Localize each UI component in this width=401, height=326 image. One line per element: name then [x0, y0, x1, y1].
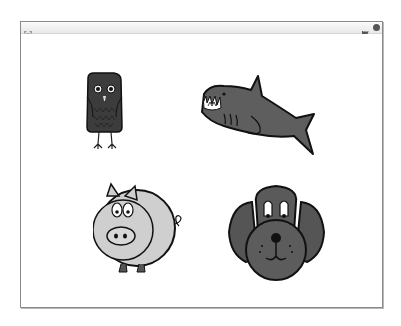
stage-frame	[20, 21, 383, 308]
owl-sprite[interactable]	[84, 72, 126, 154]
pig-sprite[interactable]	[93, 182, 185, 277]
dog-sprite[interactable]	[224, 182, 329, 287]
shark-sprite[interactable]	[196, 74, 331, 156]
player-titlebar	[21, 22, 382, 34]
stop-icon[interactable]	[373, 24, 380, 31]
green-flag-icon[interactable]	[362, 24, 370, 31]
stage-canvas[interactable]	[21, 34, 382, 307]
fullscreen-icon[interactable]	[24, 24, 32, 31]
